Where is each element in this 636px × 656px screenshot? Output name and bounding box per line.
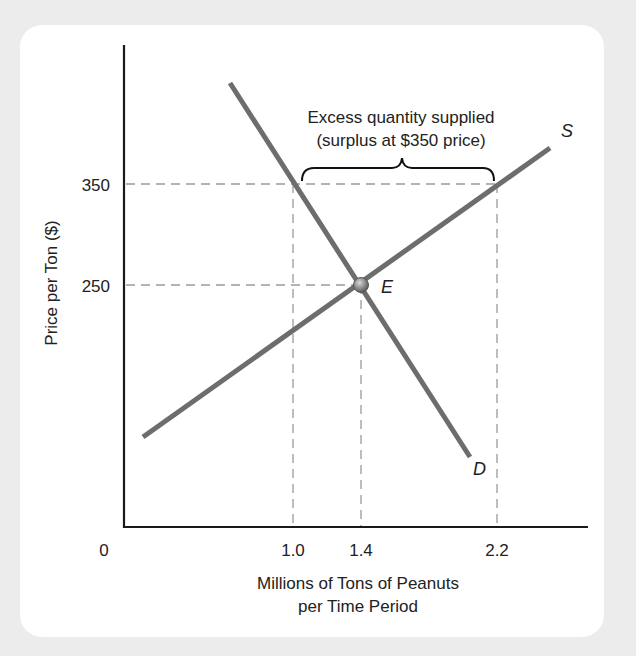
reference-lines bbox=[126, 184, 497, 527]
supply-demand-chart: Excess quantity supplied (surplus at $35… bbox=[0, 0, 636, 656]
demand-label: D bbox=[473, 459, 486, 479]
origin-label: 0 bbox=[99, 541, 108, 560]
y-axis-label: Price per Ton ($) bbox=[42, 220, 61, 345]
x-tick-1.4: 1.4 bbox=[349, 541, 373, 560]
x-tick-1.0: 1.0 bbox=[281, 541, 305, 560]
y-tick-250: 250 bbox=[82, 277, 110, 296]
x-axis-label-line-1: Millions of Tons of Peanuts bbox=[257, 574, 459, 593]
supply-label: S bbox=[561, 121, 573, 141]
annotation-line-1: Excess quantity supplied bbox=[307, 108, 494, 127]
equilibrium-point bbox=[354, 278, 369, 293]
x-axis-label-line-2: per Time Period bbox=[298, 597, 418, 616]
equilibrium-label: E bbox=[381, 277, 394, 297]
supply-curve bbox=[143, 148, 550, 437]
annotation-line-2: (surplus at $350 price) bbox=[316, 131, 485, 150]
y-tick-350: 350 bbox=[82, 176, 110, 195]
surplus-brace bbox=[302, 158, 494, 181]
x-tick-2.2: 2.2 bbox=[485, 541, 509, 560]
